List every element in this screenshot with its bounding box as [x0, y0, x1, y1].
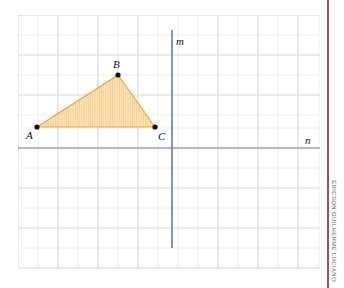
line-label-m: m [176, 35, 184, 47]
geometry-canvas: A B C m n [0, 0, 344, 288]
vertex-label-c: C [158, 130, 166, 142]
credit-strip: ERICSON GUILHERME LUCIANO [326, 0, 344, 288]
credit-text: ERICSON GUILHERME LUCIANO [326, 0, 342, 288]
line-label-n: n [305, 134, 311, 146]
vertex-dot-c [152, 124, 157, 129]
vertex-label-a: A [25, 129, 33, 141]
geometry-figure: A B C m n ERICSON GUILHERME LUCIANO [0, 0, 344, 288]
vertex-dot-b [115, 72, 120, 77]
vertex-dot-a [34, 124, 39, 129]
vertex-label-b: B [113, 58, 120, 70]
